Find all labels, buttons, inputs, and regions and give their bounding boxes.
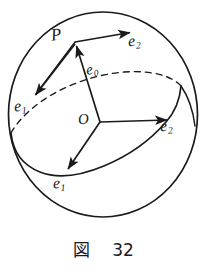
label-point-p: P <box>50 25 63 43</box>
e2-top-vector <box>75 33 130 43</box>
great-circle-right-arc <box>181 86 195 126</box>
label-e1-bottom-subscript: 1 <box>60 182 66 193</box>
figure-container: P e2 e0 e1 O e2 e1 図32 <box>0 0 207 269</box>
label-e1-left: e1 <box>13 98 26 115</box>
label-e1-bottom: e1 <box>52 175 65 192</box>
label-e2-top: e2 <box>127 32 141 49</box>
sphere-outline <box>9 12 198 217</box>
figure-caption-number: 32 <box>112 240 134 260</box>
label-e2-right: e2 <box>159 117 173 134</box>
e1-bottom-vector <box>68 122 100 169</box>
figure-drawing <box>0 0 207 269</box>
figure-caption-label: 図 <box>73 240 90 260</box>
label-origin: O <box>77 111 89 127</box>
e1-left-vector <box>36 44 76 95</box>
e2-right-vector <box>100 120 167 122</box>
equator-back-dashed <box>11 72 181 133</box>
figure-caption: 図32 <box>0 236 207 261</box>
equator-front-solid <box>11 86 181 176</box>
